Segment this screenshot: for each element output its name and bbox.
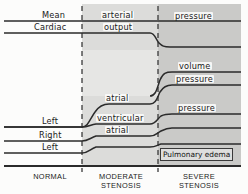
label-pressure-volume: pressure <box>175 75 214 83</box>
label-cardiac: Cardiac <box>33 23 67 31</box>
label-arterial: arterial <box>101 11 134 19</box>
figure-canvas: Mean arterial pressure Cardiac output vo… <box>0 0 248 194</box>
zone-light-band-upper <box>82 50 158 96</box>
axis-label-normal: NORMAL <box>20 172 80 181</box>
label-mean: Mean <box>41 11 66 19</box>
axis-label-moderate-line1: MODERATE <box>88 172 154 181</box>
label-volume: volume <box>178 62 212 70</box>
axis-label-severe-line2: STENOSIS <box>166 181 232 190</box>
label-ventricular: ventricular <box>96 114 144 122</box>
label-atrial-upper: atrial <box>105 94 129 102</box>
label-pressure-arterial: pressure <box>174 12 213 20</box>
label-pressure-ventricular: pressure <box>177 104 216 112</box>
axis-label-severe-line1: SEVERE <box>166 172 232 181</box>
label-right: Right <box>38 131 63 139</box>
label-atrial-lower: atrial <box>105 126 129 134</box>
label-left-lowest: Left <box>41 143 59 151</box>
pulmonary-edema-box: Pulmonary edema <box>160 148 233 161</box>
label-left-atrial: Left <box>41 117 59 125</box>
label-output: output <box>103 23 133 31</box>
axis-label-moderate-line2: STENOSIS <box>88 181 154 190</box>
